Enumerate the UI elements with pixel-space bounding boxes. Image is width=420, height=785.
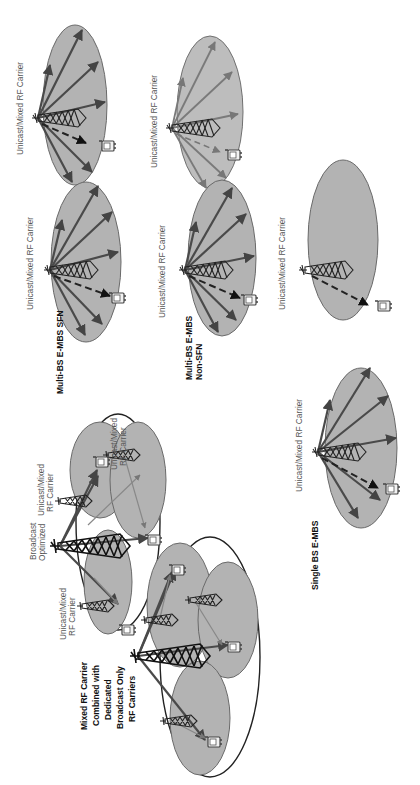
caption-line: Broadcast Only (115, 666, 125, 729)
e-mbs-deployment-diagram: Unicast/Mixed RF Carrier Unicast/Mixed R… (0, 0, 420, 785)
coverage-cell (84, 530, 132, 634)
mobile-device-icon (169, 565, 186, 575)
caption-line: Combined with (91, 665, 101, 726)
scenario-multi-bs-non-sfn: Unicast/Mixed RF Carrier Unicast/Mixed R… (149, 36, 258, 380)
mobile-device-icon (145, 535, 162, 545)
caption-line: RF Carriers (127, 675, 137, 722)
coverage-cell (308, 160, 378, 320)
scenario-caption: Non-SFN (194, 344, 204, 380)
scenario-caption: Multi-BS E-MBS SFN (55, 310, 65, 394)
mobile-device-icon (205, 737, 222, 747)
mobile-device-icon (383, 484, 400, 494)
scenario-caption: Multi-BS E-MBS (184, 315, 194, 380)
scenario-mixed-broadcast: Broadcast Optimized Unicast/Mixed RF Car… (28, 414, 260, 777)
cell-label: RF Carrier (118, 427, 128, 466)
scenario-single-bs: Unicast/Mixed RF Carrier Unicast/Mixed R… (277, 160, 400, 590)
cell-label: Unicast/Mixed RF Carrier (149, 75, 159, 168)
cell-label: RF Carrier (45, 473, 55, 512)
scenario-caption: Single BS E-MBS (310, 520, 320, 590)
coverage-cell (177, 36, 243, 188)
mobile-device-icon (99, 141, 116, 151)
caption-line: Mixed RF Carrier (79, 661, 89, 730)
mobile-device-icon (375, 301, 392, 311)
mobile-device-icon (225, 150, 242, 160)
mobile-device-icon (109, 293, 126, 303)
cell-label: Unicast/Mixed RF Carrier (15, 62, 25, 155)
mobile-device-icon (93, 457, 110, 467)
cell-label: Unicast/Mixed RF Carrier (157, 225, 167, 318)
mobile-device-icon (119, 625, 136, 635)
caption-line: Dedicated (103, 679, 113, 720)
scenario-caption: Mixed RF Carrier Combined with Dedicated… (79, 661, 137, 730)
broadcast-optimized-label: Optimized (37, 523, 47, 561)
cell-label: Unicast/Mixed RF Carrier (294, 399, 304, 492)
cell-label: RF Carrier (67, 597, 77, 636)
mobile-device-icon (241, 295, 258, 305)
cell-label: Unicast/Mixed RF Carrier (25, 217, 35, 310)
cell-label: Unicast/Mixed RF Carrier (277, 217, 287, 310)
scenario-multi-bs-sfn: Unicast/Mixed RF Carrier Unicast/Mixed R… (15, 25, 126, 394)
mobile-device-icon (225, 642, 242, 652)
